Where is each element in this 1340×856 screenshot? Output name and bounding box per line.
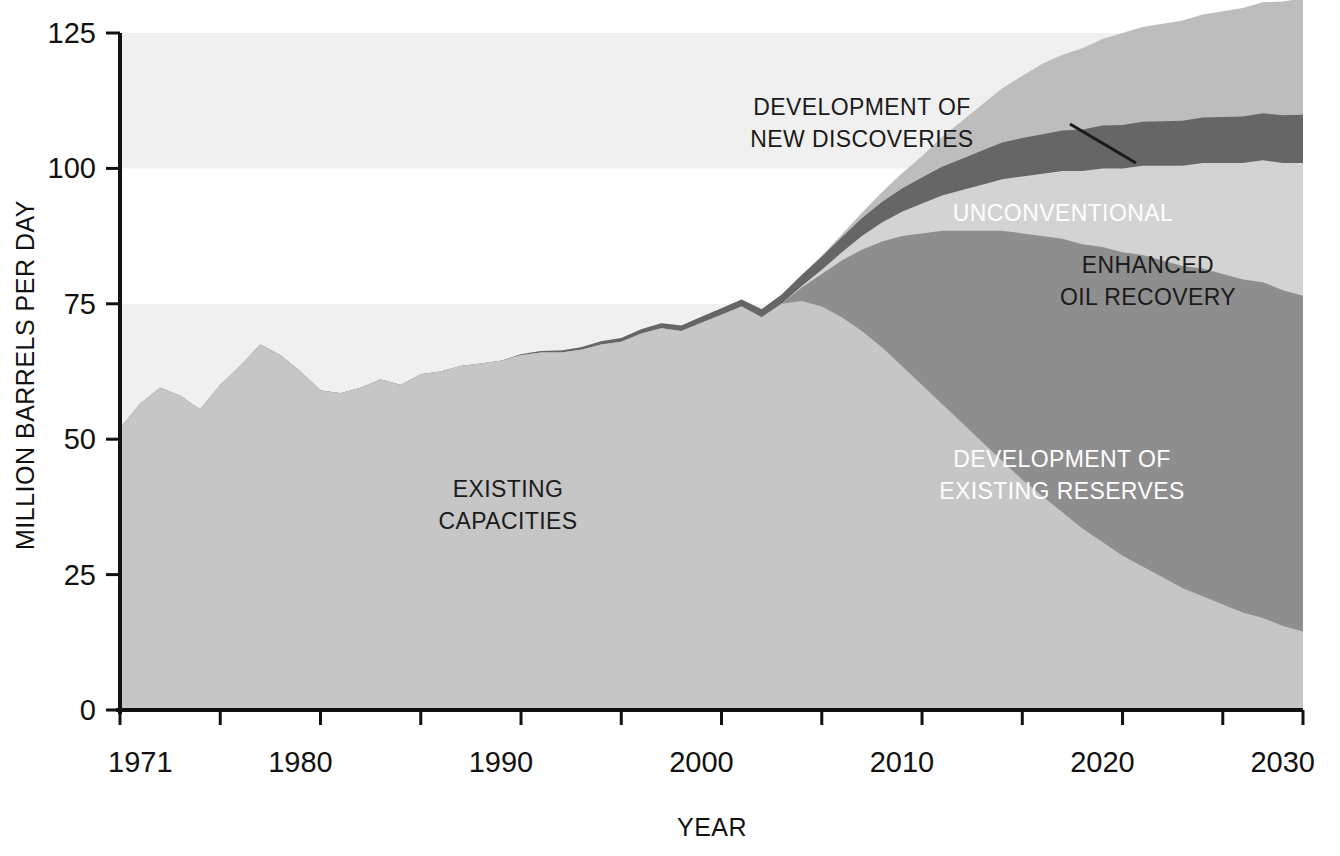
annotation-line: CAPACITIES xyxy=(438,508,577,534)
y-tick-label-100: 100 xyxy=(48,152,96,184)
annotation-line: DEVELOPMENT OF xyxy=(753,94,970,120)
annotation-line: NEW DISCOVERIES xyxy=(750,126,973,152)
y-tick-label-0: 0 xyxy=(80,694,96,726)
annotation-unconventional: UNCONVENTIONAL xyxy=(953,200,1173,226)
x-tick-label-1980: 1980 xyxy=(268,746,333,778)
annotation-line: OIL RECOVERY xyxy=(1060,284,1236,310)
x-axis-title: YEAR xyxy=(677,813,747,841)
stacked-area-chart: 0255075100125 19711980199020002010202020… xyxy=(0,0,1340,856)
y-axis-title: MILLION BARRELS PER DAY xyxy=(11,200,39,550)
x-tick-label-2000: 2000 xyxy=(669,746,734,778)
annotation-line: DEVELOPMENT OF xyxy=(953,446,1170,472)
x-tick-label-1971: 1971 xyxy=(108,746,173,778)
y-tick-label-125: 125 xyxy=(48,17,96,49)
y-tick-label-75: 75 xyxy=(64,288,96,320)
annotation-line: EXISTING RESERVES xyxy=(939,478,1184,504)
x-tick-label-2020: 2020 xyxy=(1070,746,1135,778)
chart-figure: 0255075100125 19711980199020002010202020… xyxy=(0,0,1340,856)
annotation-line: EXISTING xyxy=(453,476,564,502)
annotation-line: UNCONVENTIONAL xyxy=(953,200,1173,226)
x-tick-label-1990: 1990 xyxy=(469,746,534,778)
annotation-line: ENHANCED xyxy=(1082,252,1214,278)
x-tick-label-2030: 2030 xyxy=(1250,746,1315,778)
y-tick-label-50: 50 xyxy=(64,423,96,455)
y-tick-label-25: 25 xyxy=(64,559,96,591)
x-tick-label-2010: 2010 xyxy=(870,746,935,778)
